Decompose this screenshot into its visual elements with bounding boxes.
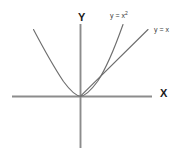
identity-line — [81, 30, 149, 97]
parabola-curve-label: y = x2 — [110, 12, 128, 19]
parabola-curve — [34, 25, 124, 97]
parabola-label-text: y = x — [110, 12, 125, 19]
plot-canvas — [0, 0, 183, 156]
parabola-label-exponent: 2 — [125, 10, 128, 16]
graph-figure: Y X y = x2 y = x — [0, 0, 183, 156]
identity-line-label: y = x — [154, 26, 169, 33]
x-axis-label: X — [160, 88, 167, 99]
y-axis-label: Y — [78, 12, 85, 23]
